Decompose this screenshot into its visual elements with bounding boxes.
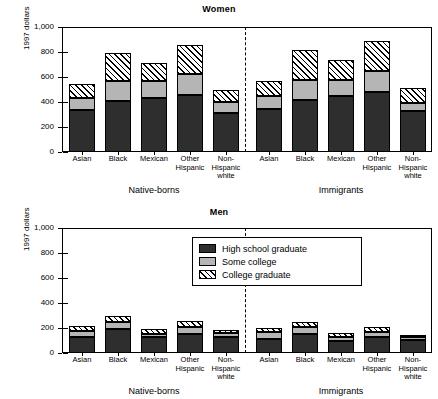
group-label-0-1: Immigrants — [291, 185, 391, 195]
bar-segment-high-school-1-4 — [213, 337, 239, 353]
y-tick-label-0-4: 800 — [24, 47, 54, 56]
x-category-label-0-4: Non- Hispanic white — [204, 155, 248, 181]
y-tick-mark-0-3 — [58, 77, 62, 78]
bar-segment-high-school-1-5 — [256, 339, 282, 353]
bar-1-0 — [69, 228, 95, 353]
x-category-label-1-9: Non- Hispanic white — [391, 356, 435, 382]
bar-segment-high-school-1-6 — [292, 334, 318, 353]
y-tick-label-1-2: 400 — [24, 298, 54, 307]
y-tick-mark-0-2 — [58, 102, 62, 103]
y-tick-label-1-3: 600 — [24, 273, 54, 282]
bar-1-1 — [105, 228, 131, 353]
y-tick-inner-1-4 — [63, 253, 68, 254]
bar-segment-some-college-1-5 — [256, 332, 282, 339]
bar-0-0 — [69, 27, 95, 152]
bar-1-8 — [364, 228, 390, 353]
legend-swatch-hatched — [199, 270, 216, 279]
bar-segment-college-graduate-0-8 — [364, 41, 390, 71]
bar-segment-high-school-0-6 — [292, 100, 318, 153]
y-tick-inner-1-5 — [63, 228, 68, 229]
bar-segment-college-graduate-0-1 — [105, 53, 131, 81]
bar-0-3 — [177, 27, 203, 152]
bar-segment-college-graduate-0-0 — [69, 84, 95, 98]
y-tick-inner-0-5 — [63, 27, 68, 28]
bar-0-7 — [328, 27, 354, 152]
bar-1-9 — [400, 228, 426, 353]
y-tick-mark-1-2 — [58, 303, 62, 304]
bar-segment-some-college-1-1 — [105, 322, 131, 329]
y-tick-inner-1-0 — [63, 353, 68, 354]
y-tick-inner-0-1 — [63, 127, 68, 128]
y-tick-label-0-5: 1,000 — [24, 22, 54, 31]
legend-item-0: High school graduate — [199, 242, 355, 255]
group-label-1-0: Native-borns — [104, 386, 204, 396]
legend-item-2: College graduate — [199, 268, 355, 281]
x-category-label-0-9: Non- Hispanic white — [391, 155, 435, 181]
bar-segment-some-college-1-6 — [292, 327, 318, 334]
legend-label-1: Some college — [222, 257, 277, 267]
legend-swatch-solid-dark — [199, 244, 216, 253]
bar-segment-some-college-0-8 — [364, 71, 390, 92]
y-tick-mark-0-0 — [58, 152, 62, 153]
y-tick-label-1-4: 800 — [24, 248, 54, 257]
bar-0-9 — [400, 27, 426, 152]
y-tick-mark-0-1 — [58, 127, 62, 128]
bar-segment-high-school-0-1 — [105, 101, 131, 152]
y-tick-inner-0-4 — [63, 52, 68, 53]
bar-0-2 — [141, 27, 167, 152]
bar-1-2 — [141, 228, 167, 353]
legend-swatch-solid-gray — [199, 257, 216, 266]
bar-segment-high-school-1-3 — [177, 334, 203, 353]
group-label-0-0: Native-borns — [104, 185, 204, 195]
chart-legend: High school graduate Some college Colleg… — [192, 237, 362, 286]
legend-item-1: Some college — [199, 255, 355, 268]
bar-segment-some-college-0-7 — [328, 80, 354, 97]
bar-0-1 — [105, 27, 131, 152]
y-tick-label-0-3: 600 — [24, 72, 54, 81]
bar-segment-high-school-1-7 — [328, 341, 354, 354]
bar-segment-college-graduate-1-3 — [177, 321, 203, 328]
bar-segment-college-graduate-0-2 — [141, 63, 167, 81]
chart-title-1: Men — [0, 207, 438, 217]
y-tick-label-0-2: 400 — [24, 97, 54, 106]
y-tick-label-0-0: 0 — [24, 147, 54, 156]
y-tick-mark-1-3 — [58, 278, 62, 279]
y-tick-inner-1-1 — [63, 328, 68, 329]
y-tick-inner-0-3 — [63, 77, 68, 78]
legend-label-2: College graduate — [222, 270, 291, 280]
bar-segment-high-school-0-3 — [177, 95, 203, 152]
bar-0-8 — [364, 27, 390, 152]
y-tick-inner-1-2 — [63, 303, 68, 304]
y-tick-mark-0-4 — [58, 52, 62, 53]
bar-segment-some-college-0-0 — [69, 98, 95, 110]
bar-segment-some-college-0-2 — [141, 81, 167, 98]
y-tick-mark-1-0 — [58, 353, 62, 354]
bar-segment-college-graduate-0-6 — [292, 50, 318, 79]
bar-segment-high-school-1-0 — [69, 337, 95, 353]
y-tick-mark-0-5 — [58, 27, 62, 28]
bar-segment-high-school-1-9 — [400, 340, 426, 353]
bar-0-5 — [256, 27, 282, 152]
bar-segment-high-school-1-2 — [141, 337, 167, 353]
bar-segment-high-school-0-2 — [141, 98, 167, 152]
bar-segment-high-school-1-8 — [364, 337, 390, 353]
group-label-1-1: Immigrants — [291, 386, 391, 396]
group-divider-0 — [245, 27, 246, 152]
y-tick-mark-1-4 — [58, 253, 62, 254]
bar-segment-some-college-0-6 — [292, 80, 318, 100]
bar-segment-some-college-0-9 — [400, 103, 426, 111]
y-tick-inner-0-0 — [63, 152, 68, 153]
bar-segment-high-school-0-4 — [213, 113, 239, 152]
bar-0-6 — [292, 27, 318, 152]
bar-segment-high-school-1-1 — [105, 329, 131, 353]
y-tick-label-1-5: 1,000 — [24, 223, 54, 232]
chart-title-0: Women — [0, 4, 438, 14]
bar-segment-college-graduate-0-9 — [400, 88, 426, 103]
y-tick-label-0-1: 200 — [24, 122, 54, 131]
bar-segment-high-school-0-9 — [400, 111, 426, 152]
bar-segment-high-school-0-8 — [364, 92, 390, 152]
bar-segment-some-college-0-1 — [105, 81, 131, 100]
bar-segment-college-graduate-0-3 — [177, 45, 203, 74]
y-tick-label-1-1: 200 — [24, 323, 54, 332]
bar-segment-high-school-0-0 — [69, 110, 95, 152]
